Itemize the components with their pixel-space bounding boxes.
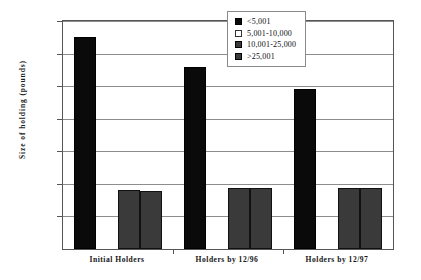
legend-swatch-icon [235,30,242,37]
legend-swatch-icon [235,18,242,25]
bar [228,188,250,249]
legend-item: 10,001-25,000 [235,39,296,51]
chart-legend: <5,001 5,001-10,000 10,001-25,000 >25,00… [227,11,306,67]
legend-item: 5,001-10,000 [235,28,296,40]
legend-label: <5,001 [247,17,271,26]
legend-label: 5,001-10,000 [247,29,292,38]
legend-label: 10,001-25,000 [247,40,296,49]
bar [184,67,206,249]
bar [294,89,316,249]
legend-label: >25,001 [247,52,275,61]
bar [250,188,272,249]
bar [140,191,162,249]
x-tick-mark [173,249,174,254]
legend-item: <5,001 [235,16,296,28]
legend-swatch-icon [235,53,242,60]
bar [360,188,382,249]
bar [118,190,140,249]
y-axis-title: Size of holding (pounds) [18,25,27,195]
x-tick-mark [283,249,284,254]
legend-item: >25,001 [235,51,296,63]
bar [74,37,96,249]
x-axis-label: Holders by 12/96 [196,255,259,264]
x-axis-label: Holders by 12/97 [306,255,369,264]
legend-swatch-icon [235,41,242,48]
bar-group [63,21,173,249]
bar [338,188,360,249]
bar-chart: Size of holding (pounds) 1,4001,2001,000… [0,0,421,280]
x-axis-label: Initial Holders [90,255,145,264]
